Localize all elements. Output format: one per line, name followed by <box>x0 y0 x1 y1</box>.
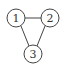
node-1: 1 <box>7 9 25 27</box>
node-2-label: 2 <box>47 12 54 25</box>
edge-1-3 <box>21 26 29 46</box>
node-2: 2 <box>41 9 59 27</box>
graph-diagram: 1 2 3 <box>0 0 66 71</box>
node-1-label: 1 <box>13 12 20 25</box>
edge-2-3 <box>37 26 45 46</box>
node-3: 3 <box>24 45 42 63</box>
node-3-label: 3 <box>30 48 37 61</box>
